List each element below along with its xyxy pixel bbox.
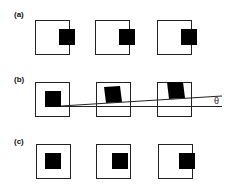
diagram-canvas: θ xyxy=(0,0,233,192)
row-c xyxy=(37,145,196,179)
row-a xyxy=(36,21,198,55)
row-b: θ xyxy=(36,82,223,117)
angle-theta-symbol: θ xyxy=(214,96,219,106)
